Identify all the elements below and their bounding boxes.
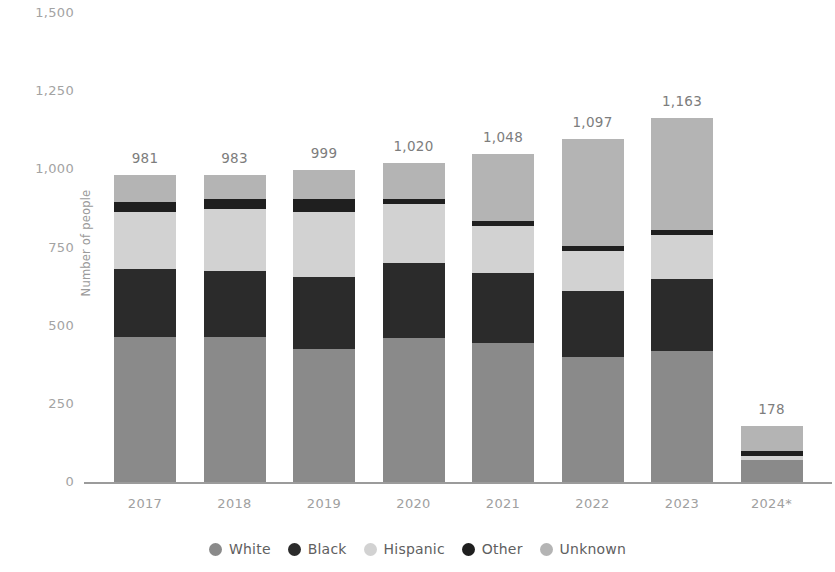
bar-segment-other[interactable] [293, 199, 355, 212]
bar-segment-unknown[interactable] [651, 118, 713, 230]
bar-group[interactable] [651, 118, 713, 482]
legend-label: Black [308, 541, 347, 557]
x-axis-tick-label: 2017 [100, 496, 190, 511]
legend-item[interactable]: Black [288, 541, 347, 557]
bar-segment-black[interactable] [472, 273, 534, 343]
bar-group[interactable] [204, 175, 266, 482]
y-axis-tick-label: 750 [16, 240, 74, 255]
y-axis-tick-label: 250 [16, 396, 74, 411]
bar-group[interactable] [383, 163, 445, 482]
legend-swatch-icon [209, 543, 222, 556]
bar-total-label: 1,163 [637, 93, 727, 109]
bar-segment-white[interactable] [651, 351, 713, 482]
y-axis-tick-label: 0 [16, 474, 74, 489]
legend-label: Unknown [560, 541, 626, 557]
bar-segment-unknown[interactable] [741, 426, 803, 451]
bar-segment-other[interactable] [741, 451, 803, 455]
bar-segment-hispanic[interactable] [651, 235, 713, 279]
bar-segment-unknown[interactable] [204, 175, 266, 199]
y-axis-ticks: 02505007501,0001,2501,500 [16, 0, 74, 572]
bar-segment-unknown[interactable] [472, 154, 534, 221]
legend-swatch-icon [288, 543, 301, 556]
stacked-bar-chart: Number of people 02505007501,0001,2501,5… [0, 0, 835, 572]
bar-segment-hispanic[interactable] [114, 212, 176, 270]
legend-swatch-icon [364, 543, 377, 556]
y-axis-tick-label: 1,000 [16, 161, 74, 176]
bar-segment-black[interactable] [651, 279, 713, 351]
bar-segment-white[interactable] [293, 349, 355, 482]
y-axis-tick-label: 500 [16, 318, 74, 333]
bar-segment-unknown[interactable] [293, 170, 355, 199]
x-axis-tick-label: 2023 [637, 496, 727, 511]
bar-segment-hispanic[interactable] [562, 251, 624, 292]
bar-segment-black[interactable] [114, 269, 176, 337]
bar-segment-other[interactable] [383, 199, 445, 204]
x-axis-tick-label: 2021 [458, 496, 548, 511]
legend-swatch-icon [540, 543, 553, 556]
bar-segment-hispanic[interactable] [472, 226, 534, 273]
bar-segment-white[interactable] [562, 357, 624, 482]
bar-group[interactable] [472, 154, 534, 482]
bar-segment-black[interactable] [204, 271, 266, 337]
x-axis-tick-label: 2024* [727, 496, 817, 511]
legend-label: White [229, 541, 271, 557]
legend-item[interactable]: White [209, 541, 271, 557]
bar-total-label: 1,048 [458, 129, 548, 145]
x-axis-tick-label: 2020 [369, 496, 459, 511]
bar-segment-white[interactable] [204, 337, 266, 482]
bar-segment-hispanic[interactable] [204, 209, 266, 271]
bar-segment-other[interactable] [472, 221, 534, 226]
bar-segment-unknown[interactable] [562, 139, 624, 246]
bar-segment-other[interactable] [651, 230, 713, 235]
bar-segment-white[interactable] [383, 338, 445, 482]
bar-group[interactable] [562, 139, 624, 482]
chart-legend: WhiteBlackHispanicOtherUnknown [0, 541, 835, 557]
bar-segment-other[interactable] [204, 199, 266, 209]
bar-segment-unknown[interactable] [114, 175, 176, 201]
bar-segment-white[interactable] [114, 337, 176, 482]
x-axis-tick-label: 2018 [190, 496, 280, 511]
legend-label: Hispanic [384, 541, 445, 557]
bar-segment-black[interactable] [383, 263, 445, 338]
legend-swatch-icon [462, 543, 475, 556]
x-axis-tick-label: 2019 [279, 496, 369, 511]
legend-item[interactable]: Hispanic [364, 541, 445, 557]
y-axis-tick-label: 1,500 [16, 5, 74, 20]
plot-area [84, 6, 829, 483]
legend-item[interactable]: Other [462, 541, 523, 557]
bar-group[interactable] [114, 175, 176, 482]
bar-total-label: 981 [100, 150, 190, 166]
bar-segment-other[interactable] [562, 246, 624, 251]
x-axis-tick-label: 2022 [548, 496, 638, 511]
bar-segment-other[interactable] [114, 202, 176, 212]
bar-segment-black[interactable] [562, 291, 624, 357]
bar-segment-hispanic[interactable] [741, 456, 803, 460]
x-axis-baseline [84, 482, 832, 484]
bar-group[interactable] [741, 426, 803, 482]
bar-total-label: 1,020 [369, 138, 459, 154]
y-axis-tick-label: 1,250 [16, 83, 74, 98]
legend-item[interactable]: Unknown [540, 541, 626, 557]
bar-total-label: 178 [727, 401, 817, 417]
bar-segment-white[interactable] [472, 343, 534, 482]
bar-group[interactable] [293, 170, 355, 482]
bar-segment-black[interactable] [293, 277, 355, 349]
bar-segment-unknown[interactable] [383, 163, 445, 199]
bar-total-label: 983 [190, 150, 280, 166]
bar-segment-white[interactable] [741, 460, 803, 482]
bar-total-label: 1,097 [548, 114, 638, 130]
bar-segment-hispanic[interactable] [383, 204, 445, 263]
legend-label: Other [482, 541, 523, 557]
bar-total-label: 999 [279, 145, 369, 161]
bar-segment-hispanic[interactable] [293, 212, 355, 278]
